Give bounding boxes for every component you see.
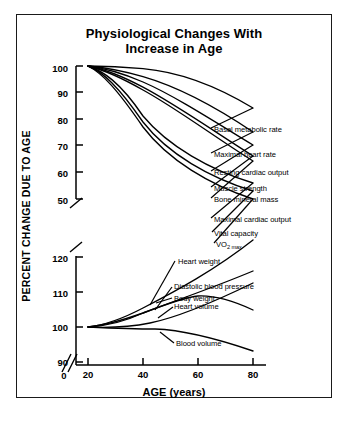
chart-page: Physiological Changes With Increase in A… xyxy=(0,0,348,428)
leader-vo2-max xyxy=(214,199,253,243)
curve-vital-capacity xyxy=(88,66,253,191)
plot-canvas xyxy=(0,0,348,428)
curve-blood-volume xyxy=(88,327,253,351)
leader-basal-metabolic-rate xyxy=(211,108,253,128)
curve-maximal-heart-rate xyxy=(88,66,253,132)
curve-resting-cardiac-output xyxy=(88,66,253,145)
curve-body-weight xyxy=(88,296,253,327)
y-axis-break-mark-lower xyxy=(70,242,82,252)
leader-blood-volume xyxy=(160,332,174,343)
leader-muscle-strength xyxy=(211,156,253,187)
curve-heart-weight xyxy=(88,240,253,327)
leader-heart-volume xyxy=(158,307,173,318)
leader-maximal-heart-rate xyxy=(211,132,253,153)
